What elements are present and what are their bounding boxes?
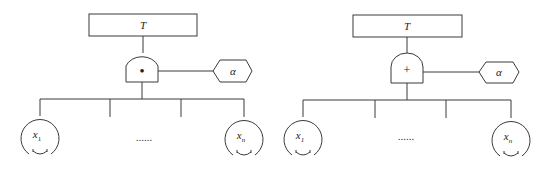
fault-tree-figure: T • α x1 ...... — [0, 0, 546, 171]
gate-symbol: + — [404, 63, 411, 77]
or-gate-tree: T + α x1 ...... xn — [284, 15, 530, 156]
basic-event-xn: xn — [225, 121, 263, 155]
event-label: x1 — [32, 128, 42, 143]
condition-label: α — [496, 66, 502, 78]
event-label: xn — [503, 130, 513, 145]
top-event-label: T — [404, 20, 411, 32]
basic-event-x1: x1 — [284, 121, 322, 155]
loop-arc-icon — [296, 152, 310, 155]
gate-symbol: • — [140, 63, 145, 78]
ellipsis: ...... — [398, 130, 415, 142]
basic-event-xn: xn — [492, 122, 530, 156]
loop-arc-icon — [33, 151, 47, 154]
and-gate-tree: T • α x1 ...... — [21, 14, 263, 155]
loop-arc-icon — [237, 152, 251, 155]
ellipsis: ...... — [136, 131, 153, 143]
event-label: xn — [236, 129, 246, 144]
condition-label: α — [230, 65, 236, 77]
basic-event-x1: x1 — [21, 120, 59, 154]
top-event-label: T — [140, 19, 147, 31]
loop-arc-icon — [504, 153, 518, 156]
event-label: x1 — [295, 129, 304, 144]
